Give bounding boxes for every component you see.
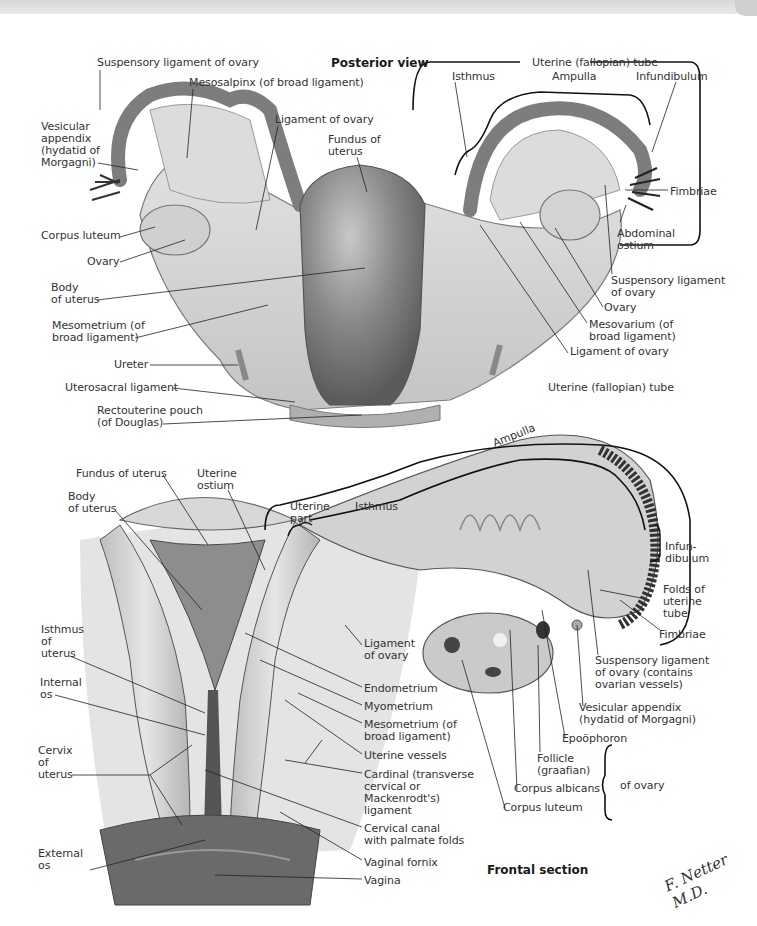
label-external-os: External os: [38, 848, 83, 872]
label-mesometrium: Mesometrium (of broad ligament): [52, 320, 145, 344]
label-susp-lig-ovary-r: Suspensory ligament of ovary: [611, 275, 725, 299]
posterior-view-drawing: [90, 62, 700, 428]
label-vesicular-appendix-l: Vesicular appendix (hydatid of Morgagni): [41, 121, 100, 169]
label-ureter: Ureter: [114, 359, 148, 371]
label-isthmus-f: Isthmus: [355, 501, 398, 513]
label-uterine-tube-top: Uterine (fallopian) tube: [532, 57, 658, 69]
label-vesicular-appendix-f: Vesicular appendix (hydatid of Morgagni): [579, 702, 696, 726]
label-corpus-luteum-f: Corpus luteum: [503, 802, 583, 814]
label-follicle: Follicle (graafian): [537, 753, 590, 777]
posterior-view-title: Posterior view: [331, 56, 429, 70]
label-ampulla-top: Ampulla: [552, 71, 596, 83]
label-corpus-luteum-l: Corpus luteum: [41, 230, 121, 242]
label-uterine-tube-mid: Uterine (fallopian) tube: [548, 382, 674, 394]
label-body-of-uterus: Body of uterus: [51, 282, 99, 306]
label-fimbriae-top: Fimbriae: [670, 186, 717, 198]
label-cervix-of-uterus: Cervix of uterus: [38, 745, 73, 781]
label-isthmus-of-uterus: Isthmus of uterus: [41, 624, 84, 660]
label-cervical-canal: Cervical canal with palmate folds: [364, 823, 464, 847]
label-infundibulum-f: Infun- dibulum: [665, 541, 709, 565]
label-body-of-uterus-f: Body of uterus: [68, 491, 116, 515]
label-internal-os: Internal os: [40, 677, 82, 701]
label-uterine-part: Uterine part: [290, 501, 330, 525]
label-vaginal-fornix: Vaginal fornix: [364, 857, 438, 869]
label-uterine-vessels: Uterine vessels: [364, 750, 447, 762]
label-vagina: Vagina: [364, 875, 401, 887]
label-uterine-ostium: Uterine ostium: [197, 468, 237, 492]
label-ovary-l: Ovary: [87, 256, 119, 268]
label-abdominal-ostium: Abdominal ostium: [617, 228, 675, 252]
label-folds-uterine-tube: Folds of uterine tube: [663, 584, 705, 620]
label-cardinal-ligament: Cardinal (transverse cervical or Mackenr…: [364, 769, 474, 817]
label-fundus-of-uterus: Fundus of uterus: [328, 134, 381, 158]
label-isthmus-top: Isthmus: [452, 71, 495, 83]
label-of-ovary: of ovary: [620, 780, 664, 792]
label-epoophoron: Epoöphoron: [562, 733, 627, 745]
frontal-section-title: Frontal section: [487, 863, 588, 877]
label-uterosacral-ligament: Uterosacral ligament: [65, 382, 178, 394]
label-susp-lig-ovary-l: Suspensory ligament of ovary: [97, 57, 259, 69]
label-ligament-of-ovary-l: Ligament of ovary: [275, 114, 374, 126]
label-ligament-of-ovary-f: Ligament of ovary: [364, 638, 415, 662]
label-ovary-r: Ovary: [604, 302, 636, 314]
label-mesosalpinx: Mesosalpinx (of broad ligament): [189, 77, 364, 89]
label-corpus-albicans: Corpus albicans: [514, 783, 600, 795]
label-mesovarium: Mesovarium (of broad ligament): [589, 319, 676, 343]
label-myometrium: Myometrium: [364, 701, 433, 713]
label-mesometrium-f: Mesometrium (of broad ligament): [364, 719, 457, 743]
label-fundus-of-uterus-f: Fundus of uterus: [76, 468, 167, 480]
label-fimbriae-f: Fimbriae: [659, 629, 706, 641]
label-ligament-of-ovary-r: Ligament of ovary: [570, 346, 669, 358]
label-infundibulum-top: Infundibulum: [636, 71, 708, 83]
label-endometrium: Endometrium: [364, 683, 438, 695]
label-susp-lig-ovary-f: Suspensory ligament of ovary (contains o…: [595, 655, 709, 691]
label-rectouterine-pouch: Rectouterine pouch (of Douglas): [97, 405, 203, 429]
